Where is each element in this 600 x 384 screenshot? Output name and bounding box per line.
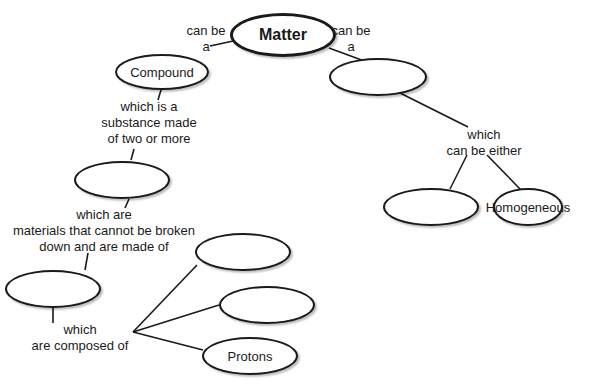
link-label-line: substance made xyxy=(101,115,196,131)
link-label-line: can be either xyxy=(446,143,521,159)
node-compound: Compound xyxy=(115,54,209,90)
node-particle-2[interactable] xyxy=(219,286,315,324)
node-heterogeneous[interactable] xyxy=(383,188,479,226)
link-label-can-be-left: can bea xyxy=(186,23,225,55)
node-homogeneous: Homogeneous xyxy=(493,188,563,226)
link-label-line: which are xyxy=(13,207,195,223)
node-atom[interactable] xyxy=(5,270,101,308)
link-label-which-are: which arematerials that cannot be broken… xyxy=(13,207,195,255)
node-text: Compound xyxy=(130,65,194,80)
link-label-which-composed: whichare composed of xyxy=(32,322,129,354)
link-label-line: are composed of xyxy=(32,338,129,354)
link-label-line: a xyxy=(331,39,370,55)
node-element[interactable] xyxy=(74,161,170,199)
link-label-line: can be xyxy=(186,23,225,39)
connector-line xyxy=(400,93,468,127)
node-protons: Protons xyxy=(202,337,298,375)
node-mixture[interactable] xyxy=(329,58,427,96)
concept-map: can beacan beawhich is asubstance madeof… xyxy=(0,0,600,384)
link-label-line: which is a xyxy=(101,99,196,115)
node-matter: Matter xyxy=(230,13,336,57)
link-label-line: of two or more xyxy=(101,131,196,147)
node-particle-1[interactable] xyxy=(195,233,291,271)
node-text: Homogeneous xyxy=(486,200,571,215)
link-label-line: a xyxy=(186,39,225,55)
link-label-line: materials that cannot be broken xyxy=(13,223,195,239)
connector-line xyxy=(131,149,134,160)
link-label-which-either: whichcan be either xyxy=(446,127,521,159)
link-label-line: which xyxy=(446,127,521,143)
node-text: Matter xyxy=(259,26,307,44)
connector-line xyxy=(133,332,203,350)
link-label-which-is-a: which is asubstance madeof two or more xyxy=(101,99,196,147)
node-text: Protons xyxy=(228,349,273,364)
link-label-can-be-right: can bea xyxy=(331,23,370,55)
connector-line xyxy=(85,253,88,270)
connector-line xyxy=(450,155,467,189)
link-label-line: which xyxy=(32,322,129,338)
connector-line xyxy=(487,155,520,189)
link-label-line: can be xyxy=(331,23,370,39)
link-label-line: down and are made of xyxy=(13,239,195,255)
